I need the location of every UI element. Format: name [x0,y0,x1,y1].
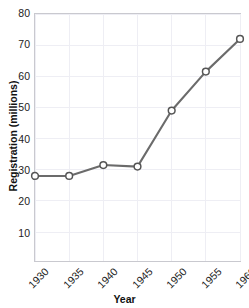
x-axis-label: Year [0,293,249,305]
x-axis-ticks: 1930193519401945195019551960 [0,0,249,308]
chart-figure: 1020304050607080 Registration (millions)… [0,0,249,308]
